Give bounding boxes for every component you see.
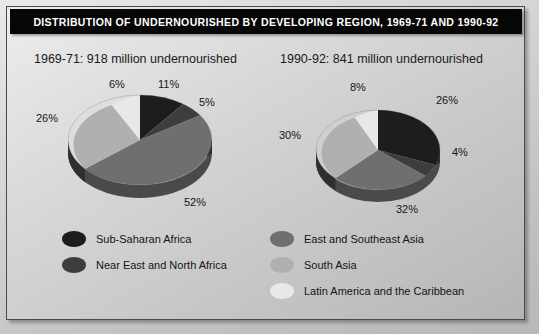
legend-item-east-southeast-asia: East and Southeast Asia <box>270 226 464 252</box>
pie2-label-south-asia: 30% <box>279 129 301 141</box>
legend-column-right: East and Southeast Asia South Asia Latin… <box>270 226 464 304</box>
pie1-label-south-asia: 26% <box>36 112 58 124</box>
legend-item-near-east-north-africa: Near East and North Africa <box>62 252 227 278</box>
legend-label-south-asia: South Asia <box>304 259 357 271</box>
legend-swatch-icon-sub-saharan-africa <box>62 231 86 247</box>
legend-item-sub-saharan-africa: Sub-Saharan Africa <box>62 226 227 252</box>
legend-label-latin-america: Latin America and the Caribbean <box>304 285 464 297</box>
pie1-label-east-southeast-asia: 52% <box>184 196 206 208</box>
legend-label-near-east-north-africa: Near East and North Africa <box>96 259 227 271</box>
legend-swatch-icon-east-southeast-asia <box>270 231 294 247</box>
pie2-svg <box>250 0 530 215</box>
pie-chart-1969-71: 11% 5% 52% 26% 6% <box>0 0 260 200</box>
legend-swatch-icon-near-east-north-africa <box>62 257 86 273</box>
legend-swatch-icon-south-asia <box>270 257 294 273</box>
pie1-svg <box>0 0 260 210</box>
legend-label-sub-saharan-africa: Sub-Saharan Africa <box>96 233 191 245</box>
legend-column-left: Sub-Saharan Africa Near East and North A… <box>62 226 227 278</box>
legend-item-latin-america: Latin America and the Caribbean <box>270 278 464 304</box>
pie2-label-sub-saharan-africa: 26% <box>436 94 458 106</box>
legend-item-south-asia: South Asia <box>270 252 464 278</box>
legend: Sub-Saharan Africa Near East and North A… <box>62 226 482 306</box>
legend-label-east-southeast-asia: East and Southeast Asia <box>304 233 424 245</box>
pie-chart-1990-92: 26% 4% 32% 30% 8% <box>250 0 530 210</box>
figure-panel: DISTRIBUTION OF UNDERNOURISHED BY DEVELO… <box>0 0 539 334</box>
pie1-label-near-east-north-africa: 5% <box>199 96 215 108</box>
pie2-label-latin-america: 8% <box>350 81 366 93</box>
legend-swatch-icon-latin-america <box>270 283 294 299</box>
pie2-label-near-east-north-africa: 4% <box>452 146 468 158</box>
pie1-label-latin-america: 6% <box>109 78 125 90</box>
pie2-label-east-southeast-asia: 32% <box>396 203 418 215</box>
pie1-label-sub-saharan-africa: 11% <box>158 78 179 90</box>
